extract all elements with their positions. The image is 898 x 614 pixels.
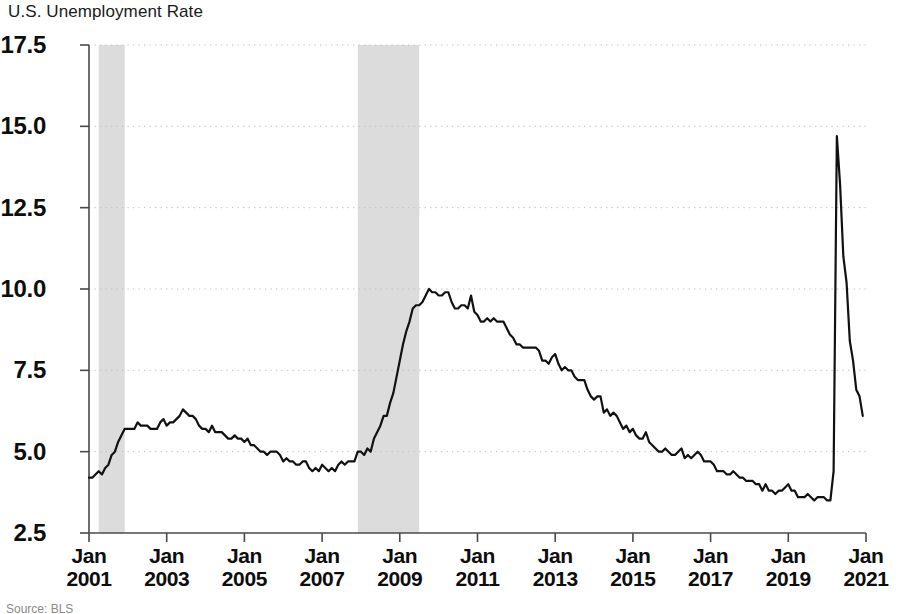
y-tick-label: 12.5 — [0, 194, 46, 222]
x-tick-label: Jan2021 — [811, 545, 898, 590]
x-tick-year: 2021 — [811, 568, 898, 591]
y-tick-label: 7.5 — [0, 356, 46, 384]
y-tick-label: 10.0 — [0, 275, 46, 303]
gridline-group — [89, 45, 866, 452]
y-tick-label: 15.0 — [0, 112, 46, 140]
chart-figure: U.S. Unemployment Rate 2.55.07.510.012.5… — [0, 0, 898, 614]
chart-footnote: Source: BLS — [6, 602, 73, 613]
tick-marks-group — [80, 45, 866, 542]
unemployment-rate-line — [89, 136, 863, 500]
y-tick-label: 2.5 — [0, 519, 46, 547]
y-tick-label: 17.5 — [0, 31, 46, 59]
y-tick-label: 5.0 — [0, 438, 46, 466]
line-chart-plot — [0, 0, 898, 614]
x-tick-month: Jan — [811, 545, 898, 568]
recession-shading-group — [99, 45, 420, 533]
recession-band — [358, 45, 419, 533]
